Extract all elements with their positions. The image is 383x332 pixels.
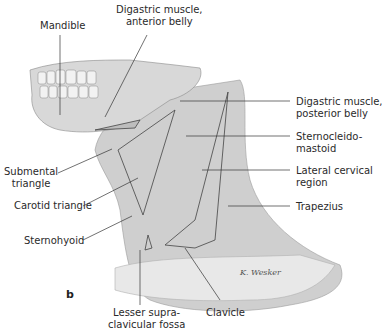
label-digastric-posterior: Digastric muscle, posterior belly xyxy=(296,96,383,120)
label-mandible: Mandible xyxy=(40,20,86,32)
label-carotid-triangle: Carotid triangle xyxy=(14,200,92,212)
label-clavicle: Clavicle xyxy=(206,307,245,319)
label-lateral-cervical-region: Lateral cervical region xyxy=(296,165,373,189)
label-digastric-anterior: Digastric muscle, anterior belly xyxy=(116,4,203,28)
artist-signature: K. Wesker xyxy=(239,268,282,277)
label-trapezius: Trapezius xyxy=(296,201,343,213)
label-sternohyoid: Sternohyoid xyxy=(24,235,84,247)
panel-label: b xyxy=(66,288,74,301)
label-sternocleidomastoid: Sternocleido- mastoid xyxy=(296,131,362,155)
label-submental-triangle: Submental triangle xyxy=(4,166,58,190)
label-lesser-supraclavicular-fossa: Lesser supra- clavicular fossa xyxy=(108,307,185,331)
